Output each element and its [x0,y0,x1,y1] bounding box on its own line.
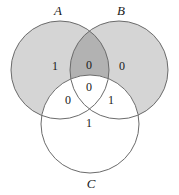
region-value-a-and-b: 0 [86,58,92,72]
region-value-b-and-c: 1 [108,93,114,107]
region-value-a-and-c: 0 [65,93,71,107]
set-label-a: A [53,3,62,18]
region-value-c-only: 1 [86,116,92,130]
set-label-c: C [87,176,96,191]
venn-diagram: A B C 1 0 0 0 0 1 1 [0,0,179,195]
set-label-b: B [117,3,125,18]
region-value-a-only: 1 [52,59,58,73]
venn-diagram-canvas: A B C 1 0 0 0 0 1 1 [0,0,179,195]
region-value-a-b-and-c: 0 [86,80,92,94]
region-value-b-only: 0 [119,59,125,73]
